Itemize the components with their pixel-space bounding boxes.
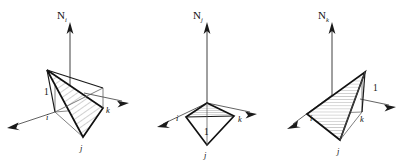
panel-k: Nk 1 i k j [287, 9, 396, 156]
panel-j-label-k: k [238, 114, 242, 124]
panel-k-unit-label: 1 [373, 83, 378, 93]
arrowhead-icon [117, 101, 129, 108]
arrowhead-icon [245, 112, 257, 119]
panel-j-normal-label: Nj [193, 9, 203, 23]
panel-j-label-j: j [203, 150, 207, 160]
panel-k-normal-axis [329, 22, 336, 95]
panel-k-normal-label: Nk [318, 9, 329, 23]
figure-container: Ni [0, 0, 407, 164]
panel-i-normal-subscript: i [65, 16, 67, 23]
panel-i-label-k: k [106, 105, 110, 115]
panel-k-axis-k [360, 99, 396, 112]
panel-i-label-j: j [79, 143, 83, 153]
panel-j-label-i: i [176, 113, 179, 123]
panel-j: Nj 1 i k j [157, 9, 257, 160]
arrowhead-icon [157, 121, 170, 129]
panel-i-unit-label: 1 [44, 87, 49, 97]
panel-j-normal-axis [204, 22, 211, 103]
arrowhead-icon [287, 121, 301, 130]
panel-k-label-j: j [336, 146, 340, 156]
arrowhead-icon [7, 123, 20, 131]
panel-k-shaded-face [307, 72, 365, 140]
panel-i-normal-label: Ni [57, 9, 67, 23]
panel-i-label-i: i [46, 112, 49, 122]
panel-j-normal-subscript: j [200, 16, 203, 23]
panel-j-unit-label: 1 [204, 127, 209, 137]
panel-k-normal-subscript: k [326, 16, 329, 23]
panel-k-label-k: k [360, 114, 364, 124]
panel-i: Ni [7, 9, 129, 153]
arrowhead-icon [384, 105, 396, 112]
tetrahedron-figure: Ni [0, 0, 407, 164]
